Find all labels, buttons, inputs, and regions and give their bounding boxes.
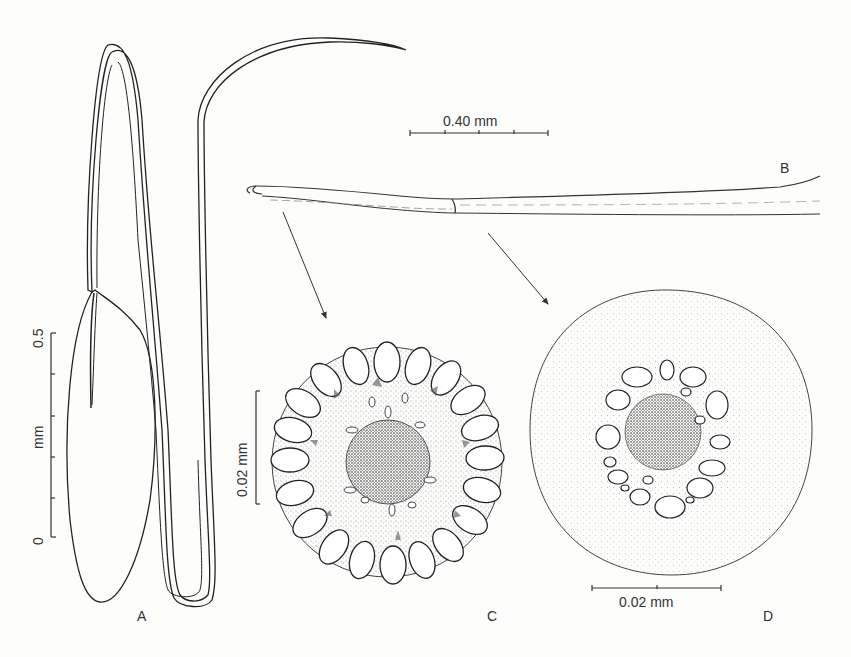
scale-bar-c [256,391,260,504]
scale-b-label: 0.40 mm [443,113,497,129]
arrow-to-d [488,233,548,304]
arrow-to-c [283,212,326,318]
panel-label-b: B [780,160,789,176]
panel-d-drawing [530,290,812,575]
scale-a-unit-label: mm [30,426,46,449]
scale-bar-a [51,333,56,537]
panel-label-c: C [487,608,497,624]
scale-d-label: 0.02 mm [619,594,673,610]
scale-c-label: 0.02 mm [234,443,250,497]
panel-c-drawing [271,342,504,584]
scale-bar-d [592,585,721,591]
panel-label-d: D [763,608,773,624]
scale-bar-b [410,130,548,136]
panel-label-a: A [137,608,146,624]
scale-a-top-label: 0.5 [30,329,46,348]
scientific-figure: A B C D 0.5 mm 0 0.40 mm 0.02 mm 0.02 mm [0,0,851,657]
scale-a-bottom-label: 0 [30,537,46,545]
figure-drawing [0,0,851,657]
panel-b-drawing [247,176,820,215]
